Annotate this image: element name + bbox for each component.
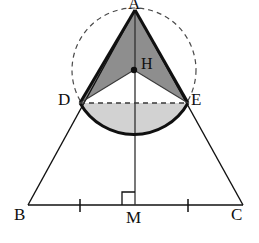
label-C: C [231,206,242,223]
label-A: A [128,0,140,12]
label-D: D [58,91,70,108]
right-angle-at-M [122,192,135,205]
label-H: H [141,56,153,72]
label-M: M [126,209,141,226]
geometry-figure: A B C M D E H [0,0,259,243]
lower-segment-region [80,103,188,135]
upper-cone-region [80,10,188,103]
label-E: E [191,91,201,108]
geometry-canvas [0,0,259,243]
label-B: B [14,206,25,223]
center-point-dot-H [131,67,137,73]
